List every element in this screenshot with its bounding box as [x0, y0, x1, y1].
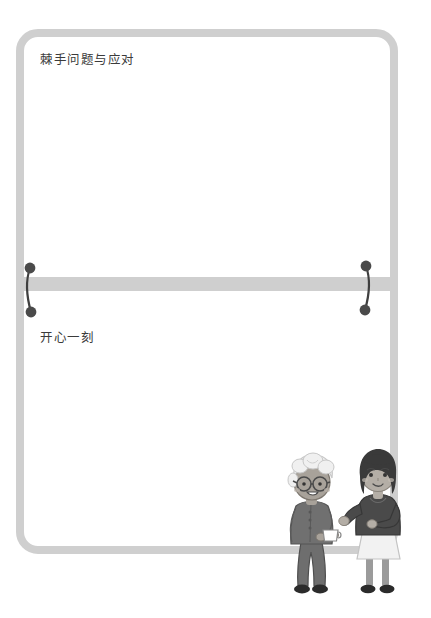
- figure-elderly-woman: [288, 453, 341, 593]
- figure-young-woman: [339, 449, 400, 593]
- slide-canvas: 棘手问题与应对 开心一刻: [0, 0, 431, 618]
- staple-clip-right-icon: [356, 258, 380, 318]
- section-title-bottom: 开心一刻: [40, 330, 94, 346]
- section-title-top: 棘手问题与应对: [40, 52, 135, 68]
- staple-clip-left-icon: [21, 260, 45, 320]
- horizontal-divider-bar: [16, 277, 398, 291]
- illustration-two-women: [272, 442, 431, 602]
